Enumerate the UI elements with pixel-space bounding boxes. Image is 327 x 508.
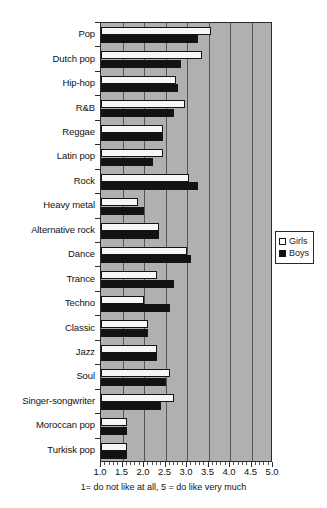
y-axis-tick [95, 315, 100, 316]
x-axis-minor-tick [156, 462, 157, 465]
y-axis-tick [95, 389, 100, 390]
legend-label-boys: Boys [289, 248, 309, 259]
y-axis-tick [95, 169, 100, 170]
x-axis-minor-tick [233, 462, 234, 465]
legend-swatch-girls-icon [279, 238, 286, 245]
bar-girls [101, 418, 127, 426]
gridline [230, 23, 231, 461]
x-axis-minor-tick [134, 462, 135, 465]
bar-boys [101, 280, 174, 288]
bar-girls [101, 369, 170, 377]
x-axis-minor-tick [238, 462, 239, 465]
x-axis-minor-tick [177, 462, 178, 465]
bar-boys [101, 133, 163, 141]
x-axis-minor-tick [139, 462, 140, 465]
bar-girls [101, 198, 138, 206]
bar-girls [101, 149, 163, 157]
bar-girls [101, 247, 187, 255]
category-label: Pop [0, 29, 95, 39]
y-axis-tick [95, 413, 100, 414]
bar-girls [101, 76, 176, 84]
bar-girls [101, 320, 148, 328]
bar-boys [101, 451, 127, 459]
chart-caption: 1= do not like at all, 5 = do like very … [0, 482, 327, 492]
bar-boys [101, 353, 157, 361]
x-axis-minor-tick [242, 462, 243, 465]
x-axis-minor-tick [212, 462, 213, 465]
bar-girls [101, 174, 189, 182]
y-axis-tick [95, 95, 100, 96]
x-axis-minor-tick [113, 462, 114, 465]
bar-girls [101, 345, 157, 353]
y-axis-tick [95, 291, 100, 292]
y-axis-tick [95, 71, 100, 72]
category-label: Dutch pop [0, 54, 95, 64]
legend-label-girls: Girls [289, 236, 308, 247]
bar-boys [101, 109, 174, 117]
x-axis-minor-tick [268, 462, 269, 465]
x-axis-minor-tick [104, 462, 105, 465]
bar-boys [101, 231, 159, 239]
gridline [252, 23, 253, 461]
y-axis-tick [95, 120, 100, 121]
category-label: Jazz [0, 347, 95, 357]
bar-girls [101, 125, 163, 133]
category-label: Classic [0, 323, 95, 333]
y-axis-tick [95, 364, 100, 365]
bar-boys [101, 35, 198, 43]
legend-swatch-boys-icon [279, 250, 286, 257]
bar-boys [101, 402, 161, 410]
gridline [187, 23, 188, 461]
y-axis-tick [95, 266, 100, 267]
y-axis-tick [95, 242, 100, 243]
y-axis-tick [95, 438, 100, 439]
bar-boys [101, 84, 178, 92]
category-label: Reggae [0, 127, 95, 137]
gridline [209, 23, 210, 461]
category-label: Alternative rock [0, 225, 95, 235]
category-label: Turkisk pop [0, 445, 95, 455]
bar-boys [101, 304, 170, 312]
category-label: Heavy metal [0, 200, 95, 210]
category-label: Moroccan pop [0, 420, 95, 430]
y-axis-tick [95, 46, 100, 47]
x-axis-minor-tick [160, 462, 161, 465]
x-axis-minor-tick [216, 462, 217, 465]
bar-girls [101, 100, 185, 108]
x-axis-minor-tick [169, 462, 170, 465]
category-label: R&B [0, 103, 95, 113]
legend-item-girls: Girls [279, 236, 309, 247]
y-axis-tick [95, 22, 100, 23]
bar-boys [101, 427, 127, 435]
x-axis-minor-tick [126, 462, 127, 465]
plot-area [100, 22, 272, 462]
x-axis-minor-tick [130, 462, 131, 465]
bar-boys [101, 182, 198, 190]
y-axis-tick [95, 218, 100, 219]
x-axis-minor-tick [182, 462, 183, 465]
bar-girls [101, 394, 174, 402]
category-label: Latin pop [0, 151, 95, 161]
bar-girls [101, 223, 159, 231]
x-axis-minor-tick [246, 462, 247, 465]
legend: Girls Boys [275, 231, 314, 264]
legend-item-boys: Boys [279, 248, 309, 259]
bar-boys [101, 207, 144, 215]
bar-boys [101, 255, 191, 263]
category-label: Rock [0, 176, 95, 186]
bar-girls [101, 296, 144, 304]
category-label: Singer-songwriter [0, 396, 95, 406]
y-axis-tick [95, 144, 100, 145]
x-axis-minor-tick [259, 462, 260, 465]
x-axis-minor-tick [109, 462, 110, 465]
bar-boys [101, 329, 148, 337]
y-axis-tick [95, 340, 100, 341]
bar-boys [101, 60, 181, 68]
x-axis-minor-tick [203, 462, 204, 465]
x-axis-minor-tick [190, 462, 191, 465]
bar-girls [101, 271, 157, 279]
bar-boys [101, 158, 153, 166]
x-axis-minor-tick [220, 462, 221, 465]
x-axis-minor-tick [173, 462, 174, 465]
category-label: Hip-hop [0, 78, 95, 88]
